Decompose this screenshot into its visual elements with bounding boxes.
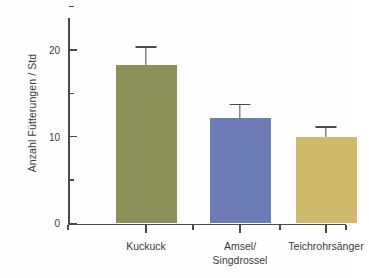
y-tick-label-20: 20 bbox=[49, 44, 60, 55]
error-bar-3 bbox=[314, 126, 338, 136]
y-tick-minor-25 bbox=[69, 6, 74, 7]
y-tick-major-0: 0 bbox=[69, 223, 77, 224]
x-tick-minor-3 bbox=[345, 225, 346, 230]
error-bar-stem-3 bbox=[325, 126, 326, 136]
error-bar-2 bbox=[228, 104, 252, 118]
error-bar-cap-3 bbox=[316, 126, 337, 128]
error-bar-1 bbox=[134, 46, 158, 64]
category-label-line1: Kuckuck bbox=[126, 240, 166, 252]
x-tick-minor-2 bbox=[279, 225, 280, 230]
x-tick-major-3 bbox=[325, 225, 326, 233]
bar-1 bbox=[116, 65, 177, 224]
y-tick-label-10: 10 bbox=[49, 131, 60, 142]
category-label-line2: Singdrossel bbox=[180, 254, 300, 268]
bar-3 bbox=[296, 137, 357, 224]
category-label-line1: Teichrohrsänger bbox=[288, 240, 363, 252]
y-tick-minor-15 bbox=[69, 93, 74, 94]
y-tick-major-20: 20 bbox=[69, 49, 77, 50]
x-tick-minor-1 bbox=[192, 225, 193, 230]
y-tick-minor-5 bbox=[69, 179, 74, 180]
x-category-label-3: Teichrohrsänger bbox=[266, 240, 369, 254]
error-bar-stem-1 bbox=[145, 46, 146, 64]
y-tick-major-10: 10 bbox=[69, 136, 77, 137]
plot-area: 01020 bbox=[68, 18, 346, 225]
error-bar-stem-2 bbox=[239, 104, 240, 118]
y-axis-title: Anzahl Fütterungen / Std bbox=[26, 18, 38, 208]
bar-2 bbox=[210, 118, 271, 224]
x-tick-major-1 bbox=[145, 225, 146, 233]
x-tick-major-2 bbox=[239, 225, 240, 233]
error-bar-cap-1 bbox=[136, 46, 157, 48]
error-bar-cap-2 bbox=[230, 104, 251, 106]
x-axis-line bbox=[68, 224, 346, 226]
x-tick-minor-0 bbox=[67, 225, 68, 230]
y-tick-label-0: 0 bbox=[54, 218, 60, 229]
category-label-line1: Amsel/ bbox=[224, 240, 256, 252]
